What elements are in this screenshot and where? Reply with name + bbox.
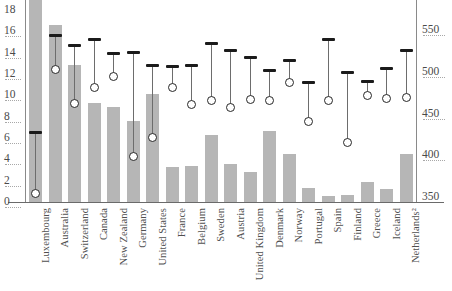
category-label: Netherlands² [410,208,421,263]
left-axis-tick-mark [5,207,21,208]
category-label: United Kingdom [254,208,265,280]
left-axis-tick-mark [5,164,21,165]
bar [185,166,198,202]
range-high-marker [166,65,179,68]
category-label: United States [157,208,168,266]
bar [302,188,315,202]
left-axis-tick-label: 6 [4,132,10,144]
category-label: New Zealand [118,208,129,265]
bar [380,189,393,202]
right-axis-tick-label: 450 [422,108,439,120]
range-low-marker [51,65,60,74]
category-label: Austria [235,208,246,240]
range-high-marker [341,71,354,74]
right-axis-tick-label: 400 [422,149,439,161]
bar [341,195,354,202]
range-high-marker [205,42,218,45]
left-axis-tick-mark [5,186,21,187]
bar [283,154,296,202]
left-axis-tick-label: 2 [4,175,10,187]
range-high-marker [68,44,81,47]
category-label: Denmark [274,208,285,248]
range-high-marker [244,56,257,59]
range-connector-line [406,51,407,98]
left-axis-tick-label: 0 [4,196,10,208]
right-axis-tick-mark [423,160,445,161]
chart-container: 024681012141618 350400450500550 Luxembou… [0,0,452,291]
range-connector-line [35,133,36,194]
left-axis-tick-mark [5,143,21,144]
range-low-marker [363,91,372,100]
range-connector-line [191,65,192,104]
range-low-marker [129,152,138,161]
range-high-marker [127,51,140,54]
category-label: Canada [98,208,109,240]
range-connector-line [328,39,329,100]
category-label: Greece [371,208,382,238]
bar [361,182,374,202]
range-low-marker [90,83,99,92]
category-label: France [176,208,187,237]
bar [88,103,101,202]
range-connector-line [230,50,231,108]
category-label: Germany [137,208,148,248]
range-high-marker [322,38,335,41]
range-connector-line [133,53,134,157]
category-label: Sweden [215,208,226,242]
range-connector-line [308,83,309,121]
x-axis-baseline [8,202,444,203]
range-high-marker [283,59,296,62]
range-high-marker [107,52,120,55]
range-high-marker [88,38,101,41]
range-high-marker [185,64,198,67]
left-axis-tick-label: 10 [4,89,16,101]
bar [205,135,218,202]
bar [224,164,237,202]
range-high-marker [380,67,393,70]
range-high-marker [400,49,413,52]
bar [107,107,120,202]
category-label: Spain [332,208,343,232]
right-axis-tick-label: 350 [422,191,439,203]
range-high-marker [263,69,276,72]
range-low-marker [187,100,196,109]
bar [263,131,276,202]
bar [322,196,335,202]
category-label: Luxembourg [40,208,51,263]
left-axis-tick-mark [5,100,21,101]
right-axis-tick-mark [423,119,445,120]
range-low-marker [304,117,313,126]
range-high-marker [29,131,42,134]
category-label: Finland [352,208,363,241]
bar [166,167,179,202]
range-connector-line [94,39,95,87]
range-low-marker [285,78,294,87]
left-axis-tick-label: 4 [4,153,10,165]
category-label: Belgium [196,208,207,245]
range-high-marker [361,80,374,83]
range-low-marker [402,93,411,102]
left-axis-tick-mark [5,122,21,123]
range-low-marker [265,96,274,105]
range-connector-line [211,43,212,101]
range-high-marker [302,81,315,84]
range-connector-line [250,58,251,100]
range-connector-line [152,65,153,138]
category-label: Norway [293,208,304,242]
range-low-marker [246,95,255,104]
range-high-marker [224,49,237,52]
range-low-marker [324,96,333,105]
range-low-marker [168,83,177,92]
bar [244,172,257,202]
category-label: Australia [59,208,70,247]
range-connector-line [74,46,75,104]
left-axis-tick-label: 8 [4,111,10,123]
category-label: Switzerland [79,208,90,259]
range-connector-line [347,73,348,143]
range-high-marker [146,64,159,67]
category-label: Iceland [391,208,402,240]
range-high-marker [49,34,62,37]
category-label: Portugal [313,208,324,244]
bar [400,154,413,202]
